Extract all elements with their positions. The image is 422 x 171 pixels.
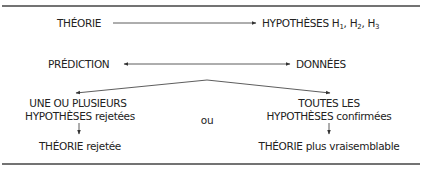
right-result-caps: THÉORIE [259,140,303,152]
right-hyp-rest: confirmées [333,110,391,122]
label-donnees: DONNÉES [296,58,346,70]
hyp-sep2: , H [361,17,375,29]
label-hypotheses: HYPOTHÈSES H1, H2, H3 [262,17,379,33]
left-result-caps: THÉORIE [39,140,83,152]
left-hyp-caps: HYPOTHÈSES [25,110,92,122]
right-hyp-caps: HYPOTHÈSES [266,110,333,122]
right-branch-line1: TOUTES LES [298,97,360,109]
sub-3: 3 [375,23,379,31]
left-branch-line1: UNE OU PLUSIEURS [29,97,126,109]
right-branch-line2: HYPOTHÈSES confirmées [266,110,391,122]
label-theorie: THÉORIE [57,17,101,29]
right-branch-result: THÉORIE plus vraisemblable [259,140,400,152]
label-prediction: PRÉDICTION [48,58,109,70]
hyp-prefix: HYPOTHÈSES H [262,17,339,29]
left-branch-line2: HYPOTHÈSES rejetées [25,110,135,122]
arrow-branch-left [76,80,207,93]
left-result-rest: rejetée [83,140,121,152]
hyp-sep1: , H [344,17,358,29]
arrow-branch-right [207,80,330,93]
connector-ou: ou [201,114,213,126]
right-result-rest: plus vraisemblable [303,140,400,152]
left-hyp-rest: rejetées [92,110,135,122]
left-branch-result: THÉORIE rejetée [39,140,121,152]
